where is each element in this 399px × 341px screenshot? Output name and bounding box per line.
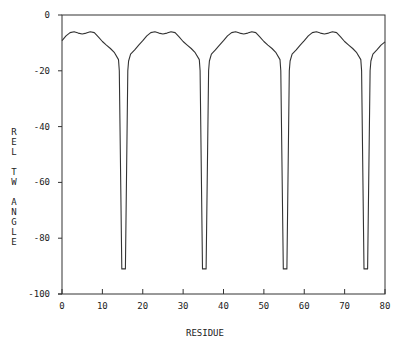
y-tick-label: 0 — [45, 10, 50, 20]
y-axis-title-letter: N — [11, 207, 16, 217]
y-tick-label: -40 — [34, 122, 50, 132]
x-tick-label: 50 — [258, 301, 269, 311]
y-tick-label: -80 — [34, 233, 50, 243]
plot-frame — [62, 15, 385, 294]
x-axis-title: RESIDUE — [186, 328, 224, 338]
y-axis-title-letter: L — [11, 147, 16, 157]
x-tick-label: 60 — [299, 301, 310, 311]
x-tick-label: 10 — [97, 301, 108, 311]
y-axis-title-letter: E — [11, 237, 16, 247]
x-axis: 01020304050607080 — [58, 289, 390, 311]
x-tick-label: 40 — [218, 301, 229, 311]
y-axis-title-letter: G — [11, 217, 16, 227]
y-axis-title-letter: E — [11, 137, 16, 147]
y-axis-title-letter: A — [11, 197, 17, 207]
y-axis-title-letter: T — [11, 167, 17, 177]
x-tick-label: 80 — [380, 301, 391, 311]
line-chart: 0-20-40-60-80-100 01020304050607080 RELT… — [0, 0, 399, 341]
y-tick-label: -100 — [28, 289, 50, 299]
y-axis: 0-20-40-60-80-100 — [28, 10, 62, 299]
x-tick-label: 20 — [137, 301, 148, 311]
x-tick-label: 0 — [59, 301, 64, 311]
data-line — [62, 32, 385, 269]
y-axis-title: RELTWANGLE — [11, 127, 17, 247]
y-tick-label: -60 — [34, 177, 50, 187]
x-tick-label: 30 — [178, 301, 189, 311]
y-axis-title-letter: W — [11, 177, 17, 187]
x-tick-label: 70 — [339, 301, 350, 311]
y-axis-title-letter: R — [11, 127, 17, 137]
y-axis-title-letter: L — [11, 227, 16, 237]
y-tick-label: -20 — [34, 66, 50, 76]
